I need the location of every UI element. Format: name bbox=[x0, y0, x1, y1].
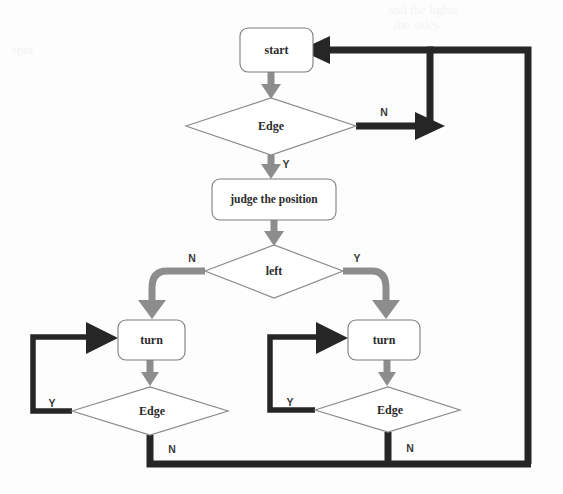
node-judge-label: judge the position bbox=[229, 193, 318, 206]
node-edge-right-label: Edge bbox=[377, 403, 404, 417]
branch-label-left-no: N bbox=[188, 252, 196, 264]
edge-judge-to-left bbox=[264, 220, 284, 246]
node-start[interactable]: start bbox=[240, 28, 313, 72]
node-edge-left-label: Edge bbox=[139, 404, 166, 418]
flowchart-svg: start Edge judge the position left turn … bbox=[0, 0, 563, 494]
node-start-label: start bbox=[265, 43, 289, 57]
outer-return-trunk bbox=[427, 50, 528, 464]
bottom-return-rail bbox=[150, 432, 531, 464]
node-judge-the-position[interactable]: judge the position bbox=[212, 179, 336, 220]
branch-label-edge1-yes: Y bbox=[282, 158, 289, 170]
edge-left-no-to-turn-left bbox=[138, 271, 205, 319]
node-edge1-label: Edge bbox=[258, 119, 285, 133]
branch-label-edge-right-no: N bbox=[406, 442, 414, 454]
node-edge-left[interactable]: Edge bbox=[72, 387, 228, 435]
node-turn-left[interactable]: turn bbox=[118, 320, 185, 360]
node-turn-left-label: turn bbox=[140, 333, 163, 347]
edge-start-to-edge1 bbox=[261, 72, 281, 99]
branch-label-left-yes: Y bbox=[353, 252, 360, 264]
edge-turn-right-to-edge-right bbox=[378, 360, 396, 386]
branch-label-edge-left-no: N bbox=[168, 443, 176, 455]
branch-label-edge-right-yes: Y bbox=[286, 396, 293, 408]
node-turn-right[interactable]: turn bbox=[348, 320, 420, 360]
edge-edge-right-yes-loop bbox=[270, 322, 348, 410]
edge-edge-left-yes-loop bbox=[33, 322, 118, 411]
node-edge1[interactable]: Edge bbox=[186, 98, 356, 155]
node-left[interactable]: left bbox=[205, 245, 343, 298]
edge-edge1-yes-to-judge bbox=[261, 155, 281, 179]
edge-turn-left-to-edge-left bbox=[141, 360, 159, 386]
node-turn-right-label: turn bbox=[373, 333, 396, 347]
flowchart-canvas: and the lights the sides spot bbox=[0, 0, 563, 494]
node-edge-right[interactable]: Edge bbox=[315, 387, 460, 432]
branch-label-edge-left-yes: Y bbox=[48, 397, 55, 409]
node-left-label: left bbox=[266, 264, 283, 278]
edge-left-yes-to-turn-right bbox=[343, 271, 400, 319]
branch-label-edge1-no: N bbox=[380, 106, 388, 118]
